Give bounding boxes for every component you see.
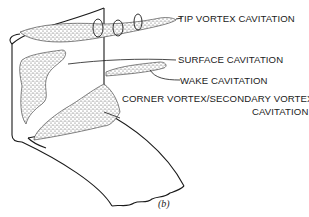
label-tip-vortex-cavitation: TIP VORTEX CAVITATION <box>178 14 295 24</box>
label-wake-cavitation: WAKE CAVITATION <box>180 76 268 86</box>
wake-cavitation-region <box>106 62 166 76</box>
tip-vortex-region <box>20 18 176 42</box>
figure-caption: (b) <box>158 198 170 209</box>
corner-vortex-region <box>34 84 120 140</box>
label-surface-cavitation: SURFACE CAVITATION <box>178 55 283 65</box>
label-corner-vortex-line1: CORNER VORTEX/SECONDARY VORTEX <box>122 94 309 104</box>
label-corner-vortex-line2: CAVITATION <box>252 107 308 117</box>
